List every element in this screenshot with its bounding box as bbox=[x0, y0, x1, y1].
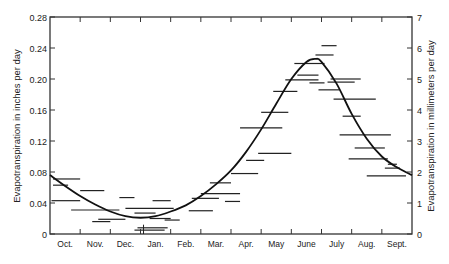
x-tick-label: Feb. bbox=[177, 239, 194, 249]
y-tick-label-left: 0 bbox=[42, 230, 47, 240]
x-tick-label: May bbox=[268, 239, 285, 249]
y-tick-label-right: 0 bbox=[417, 230, 422, 240]
y-tick-label-right: 6 bbox=[417, 44, 422, 54]
y-tick-label-left: 0.16 bbox=[29, 106, 47, 116]
y-axis-right-label: Evapotranspiration in millimeters per da… bbox=[425, 40, 436, 212]
y-tick-label-right: 3 bbox=[417, 137, 422, 147]
x-tick-label: Nov. bbox=[87, 239, 104, 249]
y-tick-label-right: 1 bbox=[417, 199, 422, 209]
x-tick-label: Apr. bbox=[239, 239, 254, 249]
x-tick-label: Sept. bbox=[387, 239, 407, 249]
y-tick-label-left: 0.28 bbox=[29, 13, 47, 23]
x-tick-label: July bbox=[329, 239, 345, 249]
y-tick-label-right: 4 bbox=[417, 106, 422, 116]
y-tick-label-left: 0.12 bbox=[29, 137, 47, 147]
y-tick-label-left: 0.08 bbox=[29, 168, 47, 178]
y-tick-label-left: 0.24 bbox=[29, 44, 47, 54]
y-tick-label-left: 0.20 bbox=[29, 75, 47, 85]
y-tick-label-left: 0.04 bbox=[29, 199, 47, 209]
x-tick-label: Aug. bbox=[358, 239, 376, 249]
x-tick-label: June bbox=[297, 239, 316, 249]
x-axis-ticks: Oct.Nov.Dec.Jan.Feb.Mar.Apr.MayJuneJulyA… bbox=[57, 17, 407, 249]
x-tick-label: Jan. bbox=[148, 239, 164, 249]
x-tick-label: Oct. bbox=[57, 239, 73, 249]
y-axis-left-label: Evapotranspiration in inches per day bbox=[11, 49, 22, 203]
y-tick-label-right: 7 bbox=[417, 13, 422, 23]
x-tick-label: Dec. bbox=[117, 239, 134, 249]
x-tick-label: Mar. bbox=[208, 239, 225, 249]
y-axis-right-ticks: 01234567 bbox=[407, 13, 422, 240]
y-tick-label-right: 5 bbox=[417, 75, 422, 85]
y-tick-label-right: 2 bbox=[417, 168, 422, 178]
evapotranspiration-chart: 00.040.080.120.160.200.240.28 01234567 O… bbox=[0, 0, 449, 264]
y-axis-left-ticks: 00.040.080.120.160.200.240.28 bbox=[29, 13, 55, 240]
measured-segments bbox=[52, 46, 406, 234]
